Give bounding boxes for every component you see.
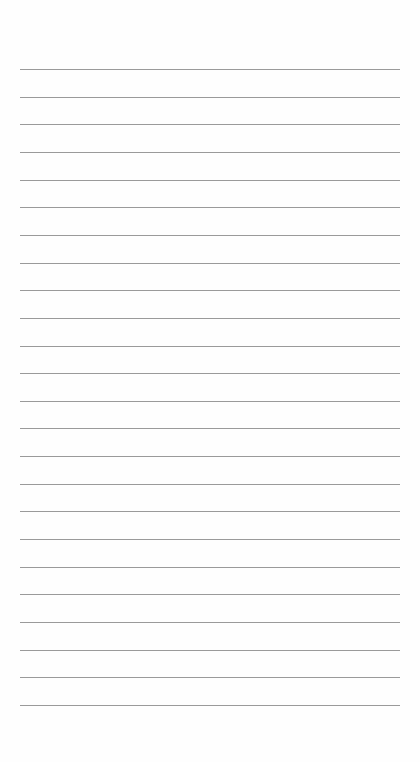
ruled-line [20, 207, 400, 208]
ruled-line [20, 650, 400, 651]
ruled-line [20, 69, 400, 70]
ruled-line [20, 705, 400, 706]
ruled-line [20, 290, 400, 291]
ruled-line [20, 677, 400, 678]
ruled-line [20, 263, 400, 264]
ruled-line [20, 124, 400, 125]
ruled-line [20, 401, 400, 402]
ruled-line [20, 594, 400, 595]
ruled-line [20, 318, 400, 319]
ruled-line [20, 567, 400, 568]
ruled-line [20, 428, 400, 429]
ruled-line [20, 152, 400, 153]
ruled-line [20, 539, 400, 540]
ruled-line [20, 622, 400, 623]
ruled-line [20, 373, 400, 374]
ruled-line [20, 180, 400, 181]
ruled-line [20, 484, 400, 485]
ruled-line [20, 97, 400, 98]
lined-paper [0, 0, 420, 762]
ruled-line [20, 235, 400, 236]
ruled-line [20, 346, 400, 347]
ruled-line [20, 456, 400, 457]
ruled-line [20, 511, 400, 512]
